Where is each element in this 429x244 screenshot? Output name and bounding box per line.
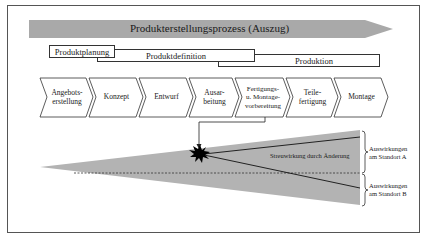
- process-arrow-label: Produkterstellungsprozess (Auszug): [130, 23, 289, 34]
- diagram-graphics: [0, 0, 429, 244]
- phase-produktdefinition: Produktdefinition: [97, 49, 255, 62]
- step-label-teilefertigung: Teile- fertigung: [293, 78, 332, 117]
- phase-produktplanung-label: Produktplanung: [55, 47, 109, 57]
- phase-produktplanung: Produktplanung: [49, 45, 115, 58]
- brace-standort-a: [362, 131, 368, 173]
- step-label-entwurf: Entwurf: [146, 78, 187, 117]
- step-label-ausarbeitung: Ausar- beitung: [196, 78, 233, 117]
- step-label-montage: Montage: [341, 78, 382, 117]
- spread-wedge: [40, 130, 360, 205]
- brace-standort-b: [362, 174, 368, 206]
- step-label-fertigungsvorbereitung: Fertigungs- u. Montage- vorbereitung: [241, 78, 285, 117]
- spread-effect-label: Streuwirkung durch Änderung: [270, 152, 349, 159]
- step-label-konzept: Konzept: [96, 78, 137, 117]
- phase-produktdefinition-label: Produktdefinition: [146, 51, 206, 61]
- step-label-angebotserstellung: Angebots- erstellung: [47, 78, 87, 117]
- phase-produktion-label: Produktion: [295, 56, 333, 66]
- impact-standort-a-label: Auswirkungen am Standort A: [369, 145, 407, 161]
- impact-standort-b-label: Auswirkungen am Standort B: [369, 182, 407, 198]
